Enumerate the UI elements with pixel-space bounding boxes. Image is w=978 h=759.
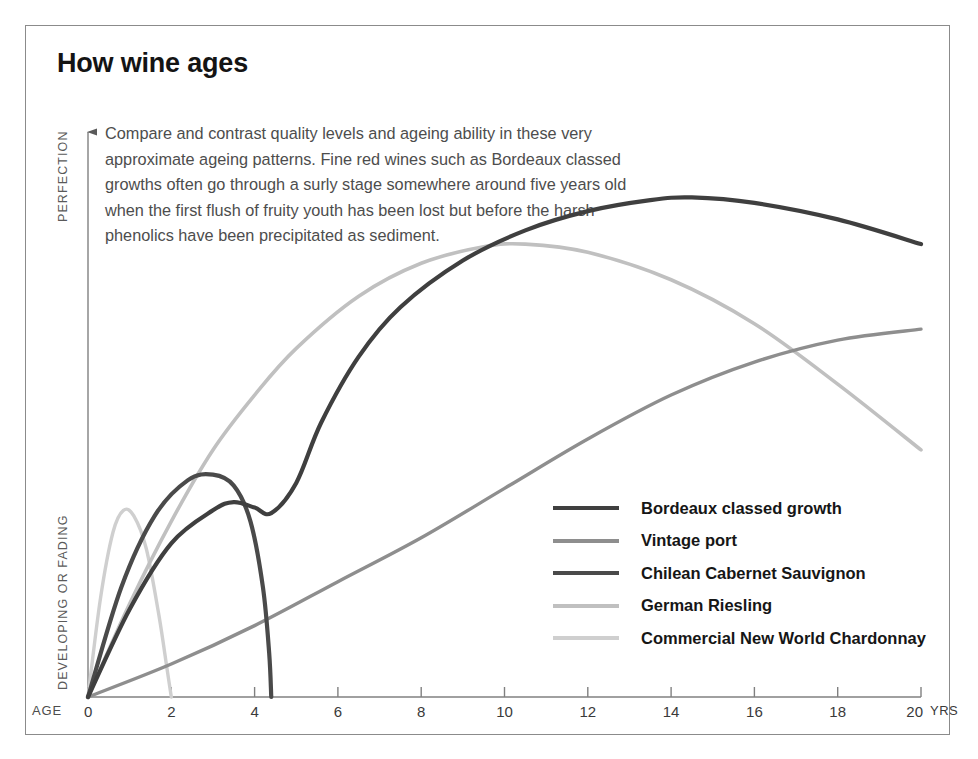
- x-tick-label: 14: [663, 703, 680, 720]
- x-tick-label: 2: [167, 703, 175, 720]
- legend-item[interactable]: Chilean Cabernet Sauvignon: [553, 557, 926, 590]
- x-tick-label: 8: [417, 703, 425, 720]
- x-tick-label: 4: [250, 703, 258, 720]
- legend-item-label: Chilean Cabernet Sauvignon: [641, 564, 866, 583]
- legend-item-label: Vintage port: [641, 531, 737, 550]
- legend-item-label: Bordeaux classed growth: [641, 499, 842, 518]
- legend-item[interactable]: Commercial New World Chardonnay: [553, 622, 926, 655]
- x-tick-label: 0: [84, 703, 92, 720]
- legend-swatch-icon: [553, 604, 619, 608]
- legend-item[interactable]: Bordeaux classed growth: [553, 492, 926, 525]
- legend-item-label: Commercial New World Chardonnay: [641, 629, 926, 648]
- chart-legend: Bordeaux classed growthVintage portChile…: [553, 492, 926, 655]
- legend-swatch-icon: [553, 539, 619, 543]
- x-tick-label: 18: [829, 703, 846, 720]
- legend-swatch-icon: [553, 571, 619, 575]
- x-axis-ticks: 02468101214161820: [84, 687, 923, 720]
- legend-swatch-icon: [553, 636, 619, 640]
- legend-item-label: German Riesling: [641, 596, 772, 615]
- legend-item[interactable]: Vintage port: [553, 525, 926, 558]
- wine-ageing-infographic: How wine ages Compare and contrast quali…: [0, 0, 978, 759]
- x-tick-label: 12: [579, 703, 596, 720]
- legend-item[interactable]: German Riesling: [553, 590, 926, 623]
- x-tick-label: 6: [334, 703, 342, 720]
- legend-swatch-icon: [553, 506, 619, 510]
- x-tick-label: 10: [496, 703, 513, 720]
- x-tick-label: 20: [906, 703, 923, 720]
- x-tick-label: 16: [746, 703, 763, 720]
